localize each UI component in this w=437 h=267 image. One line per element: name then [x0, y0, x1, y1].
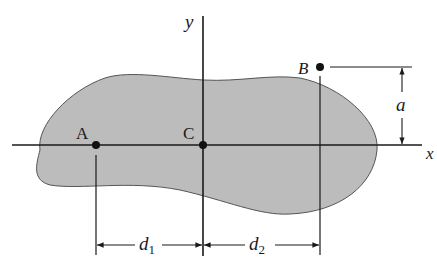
dimension-d2-label: d2 [249, 233, 265, 257]
diagram-canvas: a d1 d2 A C B y x [0, 0, 437, 267]
y-axis-label: y [183, 11, 194, 32]
x-axis-label: x [425, 144, 434, 163]
parallel-axis-diagram: a d1 d2 A C B y x [0, 0, 437, 267]
point-b-label: B [298, 59, 309, 78]
dimension-d1-label: d1 [139, 233, 155, 257]
point-a-dot [92, 141, 100, 149]
point-b-dot [316, 63, 324, 71]
dimension-a-label: a [396, 94, 406, 115]
point-c-label: C [183, 124, 194, 143]
point-c-dot [199, 141, 207, 149]
point-a-label: A [76, 124, 89, 143]
